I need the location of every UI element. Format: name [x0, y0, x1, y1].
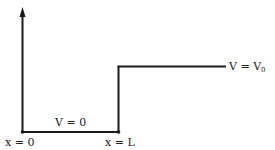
left-region-label: V = 0 — [54, 116, 86, 129]
origin-label: x = 0 — [5, 136, 34, 149]
step-position-label: x = L — [105, 136, 135, 149]
origin-point — [21, 130, 25, 134]
right-region-label: V = V0 — [228, 60, 266, 74]
potential-step-diagram: V = 0 x = 0 x = L V = V0 — [0, 0, 275, 150]
axis-arrow-icon — [20, 7, 26, 17]
